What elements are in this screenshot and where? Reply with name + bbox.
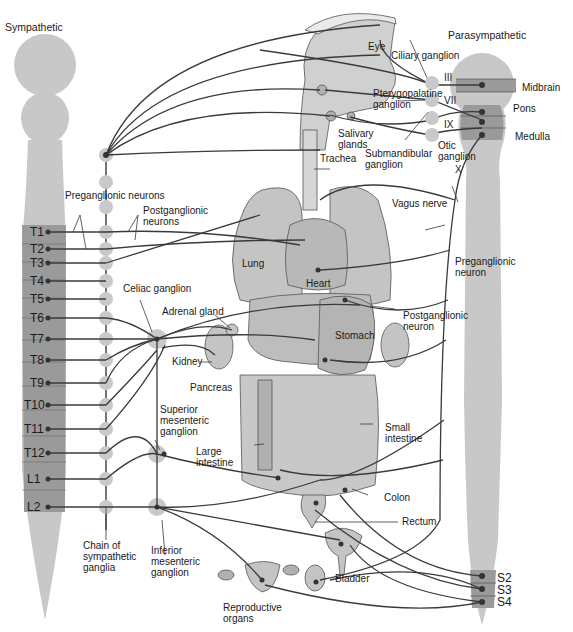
label-preganglionic-neurons: Preganglionic neurons xyxy=(65,190,165,201)
bladder xyxy=(325,528,362,575)
label-salivary-glands: Salivaryglands xyxy=(338,128,374,150)
segment-t4: T4 xyxy=(30,274,44,288)
segment-s4: S4 xyxy=(497,595,512,609)
segment-t12: T12 xyxy=(24,446,45,460)
region-medulla: Medulla xyxy=(515,131,550,142)
segment-t6: T6 xyxy=(30,311,44,325)
segment-t7: T7 xyxy=(30,332,44,346)
label-large-intestine: Largeintestine xyxy=(196,446,233,468)
prostate xyxy=(305,565,325,591)
label-submandibular-ganglion: Submandibularganglion xyxy=(365,148,432,170)
label-celiac-ganglion: Celiac ganglion xyxy=(123,283,191,294)
cranial-nerve-x: X xyxy=(455,164,462,175)
label-otic-ganglion: Oticganglion xyxy=(438,140,476,162)
large-intestine xyxy=(258,380,272,470)
segment-t1: T1 xyxy=(30,225,44,239)
label-trachea: Trachea xyxy=(320,153,356,164)
segment-t8: T8 xyxy=(30,353,44,367)
label-lung: Lung xyxy=(242,258,264,269)
label-colon: Colon xyxy=(384,492,410,503)
segment-l1: L1 xyxy=(27,472,40,486)
label-postganglionic-neurons: Postganglionicneurons xyxy=(143,205,208,227)
label-bladder: Bladder xyxy=(335,573,369,584)
cranial-nerve-iii: III xyxy=(444,72,452,83)
sympathetic-spinal-cord xyxy=(14,34,76,620)
rectum xyxy=(301,495,326,528)
label-eye: Eye xyxy=(368,41,385,52)
label-inferior-mesenteric-ganglion: Inferiormesentericganglion xyxy=(151,545,200,578)
cranial-nerve-vii: VII xyxy=(444,95,456,106)
label-small-intestine: Smallintestine xyxy=(385,422,422,444)
label-stomach: Stomach xyxy=(335,330,374,341)
segment-t9: T9 xyxy=(30,376,44,390)
label-rectum: Rectum xyxy=(402,516,436,527)
region-pons: Pons xyxy=(513,103,536,114)
segment-t2: T2 xyxy=(30,242,44,256)
label-kidney: Kidney xyxy=(172,356,203,367)
label-vagus-nerve: Vagus nerve xyxy=(392,198,447,209)
trachea xyxy=(303,130,317,210)
segment-t10: T10 xyxy=(24,398,45,412)
diagram-canvas xyxy=(0,0,573,632)
label-postganglionic-neuron: Postganglionicneuron xyxy=(403,310,468,332)
label-preganglionic-neuron: Preganglionicneuron xyxy=(455,256,516,278)
segment-t5: T5 xyxy=(30,292,44,306)
label-superior-mesenteric-ganglion: Superiormesentericganglion xyxy=(160,404,209,437)
segment-l2: L2 xyxy=(27,500,40,514)
label-ciliary-ganglion: Ciliary ganglion xyxy=(391,50,459,61)
cranial-nerve-ix: IX xyxy=(444,119,453,130)
title-parasympathetic: Parasympathetic xyxy=(448,30,526,41)
region-midbrain: Midbrain xyxy=(522,82,560,93)
segment-t11: T11 xyxy=(24,422,44,436)
segment-t3: T3 xyxy=(30,256,44,270)
parasympathetic-spinal-cord xyxy=(450,53,516,625)
label-reproductive-organs: Reproductiveorgans xyxy=(223,602,282,624)
label-pancreas: Pancreas xyxy=(190,382,232,393)
label-chain-of-sympathetic-ganglia: Chain ofsympatheticganglia xyxy=(83,540,136,573)
label-pterygopalatine-ganglion: Pterygopalatineganglion xyxy=(373,88,443,110)
label-heart: Heart xyxy=(306,278,330,289)
title-sympathetic: Sympathetic xyxy=(5,22,63,33)
label-adrenal-gland: Adrenal gland xyxy=(162,306,224,317)
